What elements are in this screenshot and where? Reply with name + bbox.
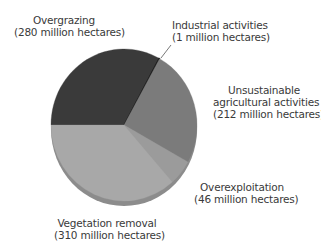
label-unsustainable-name-1: Unsustainable bbox=[213, 84, 315, 96]
label-overexploitation-value: (46 million hectares) bbox=[194, 193, 290, 205]
label-vegetation-name: Vegetation removal bbox=[54, 217, 160, 229]
label-unsustainable: Unsustainable agricultural activities (2… bbox=[213, 84, 315, 120]
label-industrial-name: Industrial activities bbox=[172, 19, 264, 31]
label-vegetation: Vegetation removal (310 million hectares… bbox=[54, 217, 160, 241]
label-overexploitation-name: Overexploitation bbox=[194, 181, 290, 193]
label-overgrazing-name: Overgrazing bbox=[14, 14, 114, 26]
label-unsustainable-name-2: agricultural activities bbox=[213, 96, 315, 108]
label-unsustainable-value: (212 million hectares) bbox=[213, 108, 315, 120]
industrial-leader-line bbox=[161, 45, 171, 58]
label-industrial: Industrial activities (1 million hectare… bbox=[172, 19, 264, 43]
label-overgrazing-value: (280 million hectares) bbox=[14, 26, 114, 38]
pie-slices bbox=[51, 49, 197, 201]
label-overgrazing: Overgrazing (280 million hectares) bbox=[14, 14, 114, 38]
label-vegetation-value: (310 million hectares) bbox=[54, 229, 160, 241]
label-overexploitation: Overexploitation (46 million hectares) bbox=[194, 181, 290, 205]
label-industrial-value: (1 million hectares) bbox=[172, 31, 264, 43]
